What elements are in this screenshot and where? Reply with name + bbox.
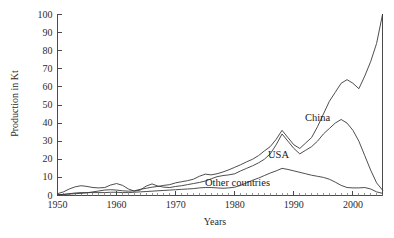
y-tick-label: 50 xyxy=(27,100,53,110)
x-axis-title: Years xyxy=(175,216,255,227)
chart-series xyxy=(58,15,383,195)
x-tick-label: 2000 xyxy=(333,200,373,210)
y-tick-label: 80 xyxy=(27,46,53,56)
chart-axes xyxy=(58,14,383,196)
y-tick-label: 60 xyxy=(27,82,53,92)
x-tick-label: 1970 xyxy=(156,200,196,210)
y-axis-title: Production in Kt xyxy=(9,49,20,159)
y-tick-label: 70 xyxy=(27,64,53,74)
y-tick-label: 20 xyxy=(27,154,53,164)
chart-ticks xyxy=(58,15,383,196)
x-tick-label: 1960 xyxy=(97,200,137,210)
x-tick-label: 1990 xyxy=(274,200,314,210)
x-tick-label: 1950 xyxy=(38,200,78,210)
x-tick-label: 1980 xyxy=(215,200,255,210)
series-path-china xyxy=(58,15,383,195)
series-label-china: China xyxy=(305,112,330,123)
y-tick-label: 100 xyxy=(27,10,53,20)
y-tick-label: 30 xyxy=(27,136,53,146)
y-tick-label: 10 xyxy=(27,172,53,182)
y-tick-label: 90 xyxy=(27,28,53,38)
series-label-other-countries: Other countries xyxy=(205,177,270,188)
series-label-usa: USA xyxy=(268,149,289,160)
production-line-chart: 0102030405060708090100 19501960197019801… xyxy=(0,0,394,238)
y-tick-label: 40 xyxy=(27,118,53,128)
